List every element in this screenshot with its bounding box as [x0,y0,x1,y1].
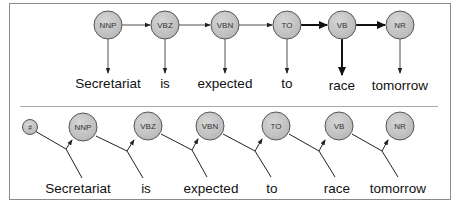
tag-label: NR [394,122,406,131]
memm-word-expected: expected [184,181,239,196]
memm-word-race: race [324,181,350,196]
memm-node-to: TO [262,112,290,140]
tag-label: VBZ [140,122,156,131]
memm-node-nnp: NNP [69,113,97,141]
memm-start-node: # [23,120,38,135]
hmm-node-vbz: VBZ [151,11,179,39]
hmm-word-tomorrow: tomorrow [372,78,429,93]
hmm-vs-memm-diagram: NNP VBZ VBN TO VB NR Secretariat is expe… [0,0,456,207]
tag-label: VBZ [157,21,173,30]
memm-node-vbz: VBZ [134,112,162,140]
memm-word-tomorrow: tomorrow [370,181,427,196]
tag-label: VBN [217,21,234,30]
tag-label: TO [282,21,293,30]
memm-word-secretariat: Secretariat [45,181,111,196]
tag-label: NNP [75,123,92,132]
hmm-node-vbn: VBN [211,11,239,39]
hmm-word-is: is [160,76,170,91]
tag-label: TO [271,122,282,131]
memm-node-vbn: VBN [196,112,224,140]
memm-node-vb: VB [325,112,353,140]
tag-label: VB [337,21,348,30]
hmm-node-nr: NR [386,11,414,39]
hmm-word-expected: expected [198,76,253,91]
start-label: # [28,124,32,131]
hmm-word-secretariat: Secretariat [75,76,141,91]
hmm-node-nnp: NNP [94,11,122,39]
hmm-node-vb: VB [328,11,356,39]
hmm-word-race: race [329,78,355,93]
memm-node-nr: NR [386,112,414,140]
hmm-word-to: to [281,76,292,91]
tag-label: VBN [202,122,219,131]
tag-label: NNP [100,21,117,30]
memm-word-is: is [141,181,151,196]
hmm-node-to: TO [273,11,301,39]
tag-label: NR [394,21,406,30]
tag-label: VB [334,122,345,131]
memm-word-to: to [266,181,277,196]
